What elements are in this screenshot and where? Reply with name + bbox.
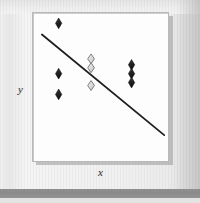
open-diamond-marker [88,81,95,91]
plot-area [33,13,168,161]
page-bottom-rule [0,189,200,198]
regression-line [42,34,164,135]
x-axis-label: x [98,167,103,178]
filled-diamond-marker [128,77,134,88]
data-marker-group [55,18,134,100]
open-diamond-marker [88,63,95,73]
y-axis-label: y [18,84,23,95]
plot-panel [32,12,169,162]
filled-diamond-marker [55,18,61,29]
page-bottom-edge [0,198,200,203]
page-right-shading [176,0,200,203]
filled-diamond-marker [55,89,61,100]
filled-diamond-marker [55,68,61,79]
scatter-plot-figure: y x [0,0,200,203]
